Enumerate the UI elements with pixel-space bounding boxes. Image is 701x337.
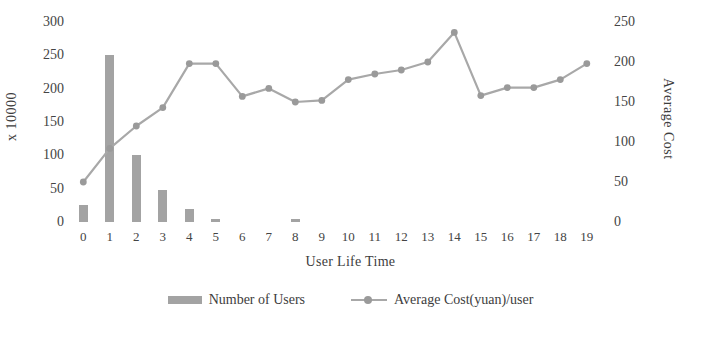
- x-tick-label: 14: [441, 230, 467, 243]
- left-tick-label: 100: [30, 148, 64, 162]
- left-tick-label: 300: [30, 15, 64, 29]
- right-tick-label: 250: [614, 15, 648, 29]
- data-point-marker: [318, 97, 325, 104]
- line-path: [83, 32, 587, 182]
- data-point-marker: [583, 60, 590, 67]
- line-marker-icon: [351, 295, 387, 305]
- legend-label: Average Cost(yuan)/user: [394, 292, 533, 308]
- x-tick-label: 17: [521, 230, 547, 243]
- chart-legend: Number of Users Average Cost(yuan)/user: [0, 292, 701, 308]
- x-tick-label: 15: [468, 230, 494, 243]
- data-point-marker: [265, 85, 272, 92]
- bar: [185, 209, 194, 222]
- data-point-marker: [477, 92, 484, 99]
- x-tick-label: 2: [123, 230, 149, 243]
- data-point-marker: [557, 76, 564, 83]
- data-point-marker: [530, 84, 537, 91]
- data-point-marker: [80, 179, 87, 186]
- data-point-marker: [186, 60, 193, 67]
- x-tick-label: 0: [70, 230, 96, 243]
- data-point-marker: [212, 60, 219, 67]
- left-axis-title: x 10000: [4, 92, 20, 141]
- x-tick-label: 16: [494, 230, 520, 243]
- left-tick-label: 50: [30, 182, 64, 196]
- data-point-marker: [133, 123, 140, 130]
- x-tick-label: 18: [547, 230, 573, 243]
- data-point-marker: [451, 29, 458, 36]
- right-tick-label: 200: [614, 55, 648, 69]
- x-tick-label: 4: [176, 230, 202, 243]
- left-tick-label: 200: [30, 82, 64, 96]
- legend-label: Number of Users: [209, 292, 305, 308]
- plot-area: [70, 22, 600, 222]
- x-tick-label: 7: [256, 230, 282, 243]
- legend-item-average-cost[interactable]: Average Cost(yuan)/user: [351, 292, 533, 308]
- x-tick-label: 13: [415, 230, 441, 243]
- x-tick-label: 3: [150, 230, 176, 243]
- x-tick-label: 1: [97, 230, 123, 243]
- bar: [79, 205, 88, 222]
- x-tick-label: 19: [574, 230, 600, 243]
- x-axis-title: User Life Time: [0, 254, 701, 270]
- data-point-marker: [424, 59, 431, 66]
- left-tick-label: 0: [30, 215, 64, 229]
- data-point-marker: [345, 76, 352, 83]
- bar: [158, 190, 167, 222]
- x-tick-label: 5: [203, 230, 229, 243]
- data-point-marker: [292, 99, 299, 106]
- x-tick-label: 6: [229, 230, 255, 243]
- x-tick-label: 8: [282, 230, 308, 243]
- left-tick-label: 250: [30, 48, 64, 62]
- data-point-marker: [398, 67, 405, 74]
- data-point-marker: [504, 84, 511, 91]
- bar: [132, 155, 141, 222]
- right-tick-label: 50: [614, 175, 648, 189]
- right-axis-title: Average Cost: [660, 78, 676, 160]
- x-tick-label: 11: [362, 230, 388, 243]
- bar-swatch-icon: [168, 296, 202, 304]
- left-tick-label: 150: [30, 115, 64, 129]
- legend-item-number-of-users[interactable]: Number of Users: [168, 292, 305, 308]
- bar: [211, 219, 220, 222]
- chart-container: x 10000 Average Cost User Life Time 0501…: [0, 0, 701, 337]
- right-tick-label: 0: [614, 215, 648, 229]
- right-tick-label: 150: [614, 95, 648, 109]
- data-point-marker: [239, 93, 246, 100]
- x-tick-label: 9: [309, 230, 335, 243]
- data-point-marker: [371, 71, 378, 78]
- bar: [105, 55, 114, 222]
- x-tick-label: 12: [388, 230, 414, 243]
- data-point-marker: [159, 104, 166, 111]
- line-series: [70, 22, 600, 222]
- x-tick-label: 10: [335, 230, 361, 243]
- bar: [291, 219, 300, 222]
- right-tick-label: 100: [614, 135, 648, 149]
